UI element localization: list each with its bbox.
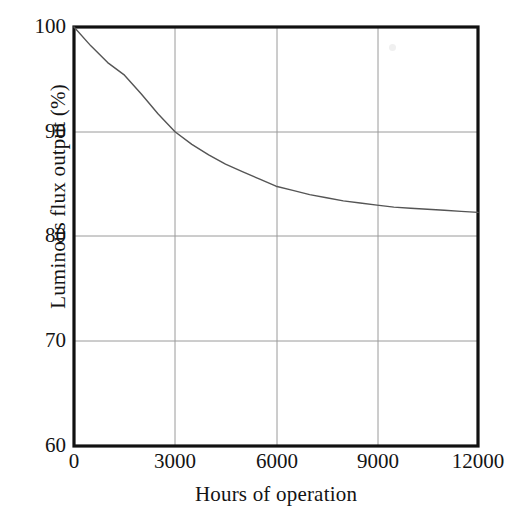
x-axis-title: Hours of operation <box>73 482 479 507</box>
grid-lines <box>74 27 478 446</box>
scan-artifact-dot <box>389 44 396 51</box>
plot-area <box>0 0 521 522</box>
lumen-depreciation-chart: Luminous flux output (%) 100 90 80 70 60… <box>0 0 521 522</box>
data-series-lumen-depreciation <box>74 27 478 212</box>
